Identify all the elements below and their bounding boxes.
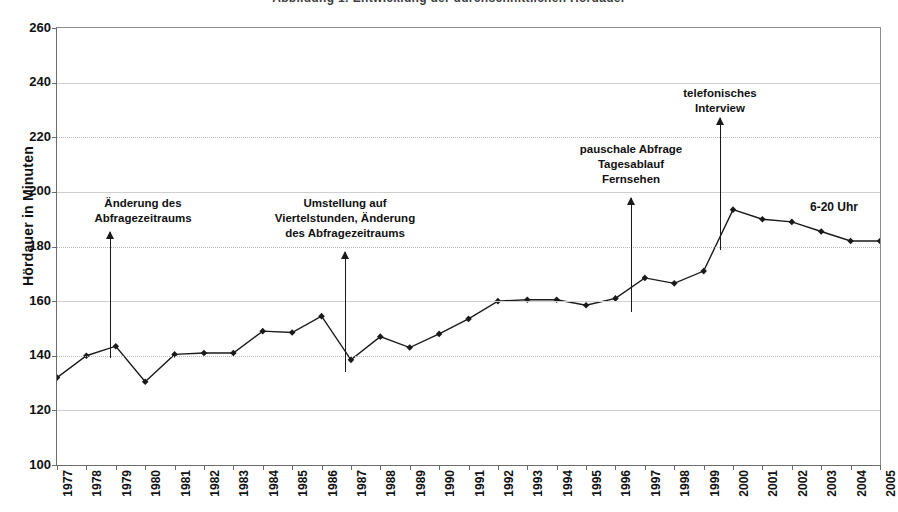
- y-tick-mark: [52, 192, 57, 193]
- data-point-marker: [877, 238, 880, 245]
- annotation-line: Viertelstunden, Änderung: [195, 211, 495, 226]
- x-tick-label: 2000: [737, 470, 751, 497]
- x-tick-label: 1988: [384, 470, 398, 497]
- x-tick-label: 1996: [619, 470, 633, 497]
- y-tick-mark: [52, 410, 57, 411]
- series-label-6-20-uhr: 6-20 Uhr: [810, 200, 858, 214]
- arrow-shaft: [720, 118, 721, 250]
- x-tick-label: 1992: [502, 470, 516, 497]
- x-tick-label: 1977: [61, 470, 75, 497]
- x-tick-label: 1994: [561, 470, 575, 497]
- x-tick-label: 1986: [326, 470, 340, 497]
- x-tick-label: 1979: [120, 470, 134, 497]
- y-tick-label: 140: [7, 348, 51, 361]
- x-tick-label: 1982: [208, 470, 222, 497]
- x-tick-label: 1993: [531, 470, 545, 497]
- y-tick-label: 220: [7, 130, 51, 143]
- annotation-line: telefonisches: [570, 86, 870, 101]
- y-tick-mark: [52, 356, 57, 357]
- x-axis-tick-labels: 1977197819791980198119821983198419851986…: [56, 466, 881, 512]
- x-tick-label: 2004: [855, 470, 869, 497]
- data-point-marker: [847, 238, 854, 245]
- y-tick-mark: [52, 301, 57, 302]
- y-gridline: [57, 192, 880, 193]
- y-tick-mark: [52, 83, 57, 84]
- annotation-line: Tagesablauf: [481, 157, 781, 172]
- annotation-line: Interview: [570, 101, 870, 116]
- y-gridline: [57, 410, 880, 411]
- data-point-marker: [671, 280, 678, 287]
- data-point-marker: [583, 302, 590, 309]
- arrow-shaft: [345, 252, 346, 372]
- x-tick-label: 1990: [443, 470, 457, 497]
- x-tick-label: 1999: [708, 470, 722, 497]
- data-point-marker: [700, 268, 707, 275]
- x-tick-label: 1997: [649, 470, 663, 497]
- x-tick-label: 1995: [590, 470, 604, 497]
- y-gridline: [57, 83, 880, 84]
- data-point-marker: [436, 331, 443, 338]
- arrow-shaft: [631, 198, 632, 312]
- arrow-head: [106, 231, 114, 239]
- y-gridline: [57, 247, 880, 248]
- y-gridline: [57, 301, 880, 302]
- annotation-line: pauschale Abfrage: [481, 142, 781, 157]
- data-point-marker: [289, 329, 296, 336]
- annotation-line: des Abfragezeitraums: [195, 226, 495, 241]
- data-point-marker: [730, 206, 737, 213]
- x-tick-label: 1978: [90, 470, 104, 497]
- annotation-umstellung-viertelstunden: Umstellung aufViertelstunden, Änderungde…: [195, 196, 495, 242]
- x-tick-label: 2003: [825, 470, 839, 497]
- data-point-marker: [406, 344, 413, 351]
- arrow-head: [627, 197, 635, 205]
- x-tick-label: 2001: [766, 470, 780, 497]
- y-axis-tick-labels: 260240220200180160140120100: [0, 0, 51, 512]
- clipped-figure-caption: Abbildung 1: Entwicklung der durchschnit…: [0, 0, 898, 5]
- y-tick-mark: [52, 137, 57, 138]
- x-tick-label: 1980: [149, 470, 163, 497]
- data-point-marker: [465, 316, 472, 323]
- x-tick-label: 1991: [473, 470, 487, 497]
- x-tick-label: 2005: [884, 470, 898, 497]
- x-tick-label: 1981: [179, 470, 193, 497]
- y-tick-label: 160: [7, 294, 51, 307]
- y-tick-label: 260: [7, 21, 51, 34]
- arrow-head: [341, 251, 349, 259]
- x-tick-label: 2002: [796, 470, 810, 497]
- data-point-marker: [759, 216, 766, 223]
- arrow-shaft: [110, 232, 111, 358]
- data-point-marker: [818, 228, 825, 235]
- x-tick-label: 1998: [678, 470, 692, 497]
- data-point-marker: [789, 219, 796, 226]
- annotation-line: Fernsehen: [481, 172, 781, 187]
- y-tick-label: 240: [7, 75, 51, 88]
- arrow-head: [716, 117, 724, 125]
- y-tick-label: 180: [7, 239, 51, 252]
- y-gridline: [57, 137, 880, 138]
- y-tick-mark: [52, 28, 57, 29]
- y-tick-mark: [52, 247, 57, 248]
- x-tick-label: 1987: [355, 470, 369, 497]
- y-gridline: [57, 356, 880, 357]
- x-tick-label: 1983: [237, 470, 251, 497]
- y-tick-label: 100: [7, 458, 51, 471]
- x-tick-label: 1984: [267, 470, 281, 497]
- x-tick-label: 1989: [414, 470, 428, 497]
- chart-container: Abbildung 1: Entwicklung der durchschnit…: [0, 0, 898, 512]
- annotation-line: Umstellung auf: [195, 196, 495, 211]
- y-tick-label: 120: [7, 403, 51, 416]
- annotation-pauschale-abfrage: pauschale AbfrageTagesablaufFernsehen: [481, 142, 781, 188]
- x-tick-label: 1985: [296, 470, 310, 497]
- annotation-telefonisches-interview: telefonischesInterview: [570, 86, 870, 116]
